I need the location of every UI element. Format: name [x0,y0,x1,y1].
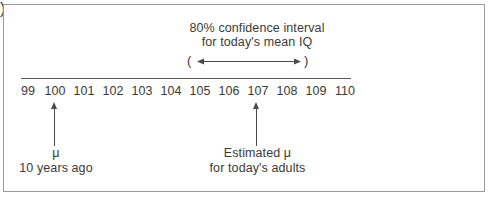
axis-tick-106: 106 [218,84,239,99]
annotation-left-symbol: μ [0,146,112,161]
annotation-right-caption: for today's adults [187,161,328,176]
number-line-axis [21,78,351,79]
axis-tick-labels: 99 100 101 102 103 104 105 106 107 108 1… [21,84,351,99]
annotation-mu-10-years-ago: μ 10 years ago [0,146,112,176]
axis-tick-101: 101 [73,84,94,99]
annotation-estimated-mu-today: Estimated μ for today's adults [187,146,328,176]
axis-tick-105: 105 [189,84,210,99]
axis-tick-99: 99 [21,84,35,99]
axis-tick-102: 102 [102,84,123,99]
axis-tick-104: 104 [160,84,181,99]
axis-tick-100: 100 [44,84,65,99]
axis-tick-108: 108 [276,84,297,99]
arrow-shaft [54,108,55,146]
annotation-left-caption: 10 years ago [0,161,112,176]
confidence-interval-caption: 80% confidence interval for today's mean… [150,21,364,49]
marker-arrow-mu-100 [49,102,61,146]
caption-line-2: for today's mean IQ [150,35,364,49]
axis-tick-107: 107 [247,84,268,99]
confidence-interval-bracket: ( ) [186,52,312,70]
axis-tick-110: 110 [335,84,355,99]
annotation-right-symbol: Estimated μ [187,146,328,161]
axis-tick-103: 103 [131,84,152,99]
interval-double-arrow-icon [186,52,312,70]
axis-tick-109: 109 [305,84,326,99]
arrow-shaft [256,108,257,146]
figure-root: 80% confidence interval for today's mean… [0,0,499,207]
caption-line-1: 80% confidence interval [150,21,364,35]
interval-right-paren: ) [304,52,308,70]
marker-arrow-estimated-mu-107 [251,102,263,146]
